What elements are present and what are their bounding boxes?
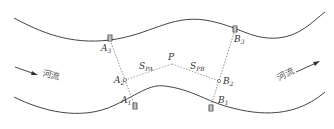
label-a1: A1 — [121, 96, 131, 106]
distance-pa-label: SPA — [139, 62, 153, 72]
label-b3-letter: B — [234, 34, 241, 44]
label-b3: B3 — [234, 35, 244, 45]
label-a2: A2 — [114, 76, 124, 86]
label-b2-sub: 2 — [230, 80, 234, 87]
label-a1-sub: 1 — [128, 99, 132, 106]
label-a3: A3 — [101, 44, 111, 54]
gauge-b3-icon — [233, 26, 237, 32]
label-b2: B2 — [223, 77, 233, 87]
label-b3-sub: 3 — [241, 38, 245, 45]
point-b2-marker — [217, 79, 220, 82]
label-b1-sub: 1 — [225, 99, 229, 106]
gauge-a3-icon — [108, 35, 112, 41]
distance-pb-label: SPB — [190, 62, 205, 72]
distance-pa-subscript: PA — [145, 65, 153, 72]
point-p-label: P — [168, 53, 174, 62]
distance-pb-subscript: PB — [196, 65, 204, 72]
flow-arrow-left-icon — [15, 67, 38, 75]
river-diagram — [0, 0, 334, 129]
gauge-a1-icon — [133, 103, 137, 109]
label-b1-letter: B — [218, 95, 225, 105]
lower-river-bank — [14, 86, 325, 114]
label-b2-letter: B — [223, 76, 230, 86]
gauge-b1-icon — [209, 105, 213, 111]
label-a2-sub: 2 — [121, 79, 125, 86]
upper-river-bank — [14, 12, 325, 41]
label-a3-sub: 3 — [108, 47, 112, 54]
flow-arrow-right-icon — [296, 61, 320, 72]
label-b1: B1 — [218, 96, 228, 106]
